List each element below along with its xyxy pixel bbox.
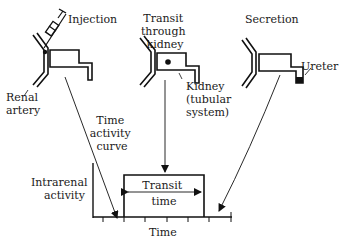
- kidney-label: Kidney (tubular system): [186, 80, 235, 119]
- y-axis-label: Intrarenal activity: [31, 176, 91, 202]
- x-axis-label: Time: [149, 226, 177, 239]
- renal-artery-icon: [33, 33, 48, 87]
- kidney-outline: [50, 50, 92, 80]
- injection-title: Injection: [68, 13, 117, 26]
- injection-stage: Injection Renal artery: [6, 9, 117, 117]
- renal-artery-label: Renal artery: [6, 91, 41, 117]
- ureter-label: Ureter: [301, 60, 339, 73]
- time-activity-graph: Intrarenal activity Transit time Time: [31, 163, 232, 239]
- kidney-outline: [157, 53, 199, 83]
- renogram-diagram: Injection Renal artery Transit through k…: [0, 0, 349, 245]
- transit-stage: Transit through kidney Kidney (tubular s…: [140, 12, 235, 119]
- syringe-icon: [43, 9, 66, 54]
- transit-title: Transit through kidney: [141, 12, 189, 51]
- time-activity-curve-label: Time activity curve: [90, 114, 135, 153]
- transit-time-label: Transit time: [142, 179, 185, 208]
- secretion-title: Secretion: [245, 13, 299, 26]
- ureter-filled: [296, 77, 303, 83]
- renal-artery-icon: [242, 38, 256, 88]
- secretion-stage: Secretion Ureter: [242, 13, 339, 88]
- tracer-dot: [165, 59, 171, 65]
